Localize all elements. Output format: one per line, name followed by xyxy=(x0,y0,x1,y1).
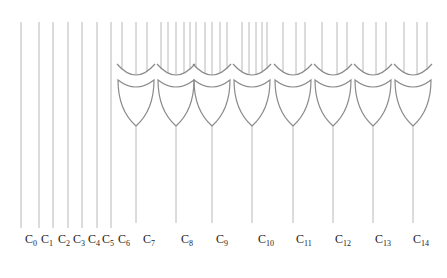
label-base: C xyxy=(88,232,96,246)
output-label-c4: C4 xyxy=(88,233,100,248)
label-subscript: 12 xyxy=(343,239,351,248)
output-label-c11: C11 xyxy=(296,233,312,248)
label-subscript: 3 xyxy=(81,239,85,248)
output-label-c7: C7 xyxy=(143,233,155,248)
label-subscript: 1 xyxy=(49,239,53,248)
output-label-c6: C6 xyxy=(118,233,130,248)
label-subscript: 8 xyxy=(189,239,193,248)
output-label-c0: C0 xyxy=(25,233,37,248)
output-label-c13: C13 xyxy=(375,233,391,248)
gate-input-arc xyxy=(394,64,432,75)
label-base: C xyxy=(143,232,151,246)
output-label-c10: C10 xyxy=(258,233,274,248)
output-label-c3: C3 xyxy=(73,233,85,248)
label-subscript: 4 xyxy=(96,239,100,248)
label-base: C xyxy=(41,232,49,246)
label-base: C xyxy=(296,232,304,246)
label-base: C xyxy=(413,232,421,246)
output-label-c12: C12 xyxy=(335,233,351,248)
gate-input-arc xyxy=(233,64,271,75)
label-base: C xyxy=(73,232,81,246)
label-subscript: 13 xyxy=(383,239,391,248)
circuit-diagram: C0C1C2C3C4C5C6C7C8C9C10C11C12C13C14 xyxy=(0,0,447,278)
label-base: C xyxy=(102,232,110,246)
gate-input-arc xyxy=(274,64,312,75)
or-gate-c13 xyxy=(355,80,391,126)
label-base: C xyxy=(258,232,266,246)
label-subscript: 11 xyxy=(304,239,312,248)
output-label-c1: C1 xyxy=(41,233,53,248)
label-base: C xyxy=(118,232,126,246)
label-base: C xyxy=(181,232,189,246)
gate-input-arc xyxy=(314,64,352,75)
or-gate-c14 xyxy=(395,80,431,126)
label-base: C xyxy=(216,232,224,246)
label-base: C xyxy=(375,232,383,246)
label-subscript: 14 xyxy=(421,239,429,248)
output-label-c14: C14 xyxy=(413,233,429,248)
or-gate-c8 xyxy=(158,80,194,126)
output-label-c2: C2 xyxy=(58,233,70,248)
label-subscript: 10 xyxy=(266,239,274,248)
or-gate-c12 xyxy=(315,80,351,126)
label-subscript: 9 xyxy=(224,239,228,248)
label-base: C xyxy=(335,232,343,246)
output-label-c9: C9 xyxy=(216,233,228,248)
or-gate-c11 xyxy=(275,80,311,126)
label-base: C xyxy=(25,232,33,246)
or-gate-c9 xyxy=(194,80,230,126)
label-subscript: 7 xyxy=(151,239,155,248)
label-subscript: 6 xyxy=(126,239,130,248)
label-base: C xyxy=(58,232,66,246)
or-gate-c10 xyxy=(234,80,270,126)
label-subscript: 0 xyxy=(33,239,37,248)
output-label-c8: C8 xyxy=(181,233,193,248)
label-subscript: 2 xyxy=(66,239,70,248)
output-label-c5: C5 xyxy=(102,233,114,248)
or-gate-c7 xyxy=(118,80,154,126)
label-subscript: 5 xyxy=(110,239,114,248)
